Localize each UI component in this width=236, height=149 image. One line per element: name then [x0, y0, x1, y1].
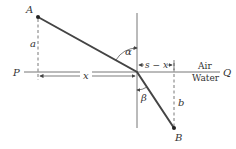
label-a-point: A: [25, 4, 33, 15]
label-q: Q: [223, 67, 231, 78]
label-water: Water: [192, 73, 220, 83]
refraction-diagram: A B P Q a b x s − x α β Air Water: [0, 0, 236, 149]
label-x: x: [83, 70, 89, 81]
label-a-distance: a: [30, 38, 36, 49]
point-b-dot: [172, 126, 176, 130]
label-alpha: α: [125, 46, 132, 57]
label-b-point: B: [174, 132, 182, 143]
label-beta: β: [140, 92, 147, 103]
beta-arc: [137, 87, 147, 90]
label-air: Air: [197, 61, 212, 71]
label-p: P: [12, 67, 20, 78]
point-a-dot: [36, 15, 40, 19]
light-path: [38, 17, 174, 128]
label-s-minus-x: s − x: [145, 60, 168, 70]
label-b-distance: b: [178, 97, 184, 108]
